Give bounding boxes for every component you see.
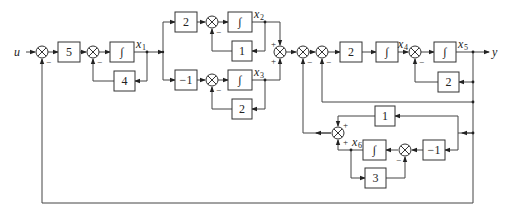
svg-text:2: 2: [183, 15, 189, 29]
svg-text:1: 1: [239, 44, 245, 58]
svg-text:−: −: [46, 57, 51, 67]
svg-text:2: 2: [446, 75, 452, 89]
svg-text:+: +: [343, 137, 348, 147]
gain-block-1-lower: 1: [375, 106, 395, 126]
svg-text:+: +: [343, 120, 348, 130]
svg-text:−: −: [326, 57, 331, 67]
integrator-block-1: ∫: [110, 42, 134, 62]
svg-text:−: −: [216, 27, 221, 37]
svg-text:x: x: [253, 7, 260, 21]
integrator-block-3: ∫: [228, 70, 252, 90]
svg-text:1: 1: [382, 109, 388, 123]
svg-text:6: 6: [358, 141, 362, 150]
svg-text:4: 4: [122, 74, 128, 88]
svg-text:x: x: [351, 135, 358, 149]
svg-text:−1: −1: [180, 73, 193, 87]
integrator-block-6: ∫: [363, 140, 386, 160]
svg-text:−: −: [307, 57, 312, 67]
svg-text:2: 2: [260, 13, 264, 22]
gain-block-2-forward: 2: [340, 42, 362, 62]
gain-block-2-mid: 2: [232, 99, 252, 119]
gain-block-2-feedback: 2: [438, 72, 459, 92]
svg-text:−: −: [396, 155, 401, 165]
gain-block-2-top: 2: [175, 12, 197, 32]
svg-text:∫: ∫: [442, 45, 447, 59]
state-label-x3: x3: [253, 65, 264, 80]
svg-text:4: 4: [404, 43, 408, 52]
state-label-x4: x4: [397, 37, 408, 52]
svg-text:∫: ∫: [237, 73, 242, 87]
svg-text:−: −: [97, 57, 102, 67]
svg-text:∫: ∫: [119, 45, 124, 59]
integrator-block-4: ∫: [376, 42, 398, 62]
block-diagram: − − − − + + − − − + + − 5 ∫ 4 2 ∫ 1 −1 ∫…: [0, 0, 508, 215]
svg-text:∫: ∫: [384, 45, 389, 59]
gain-block-neg1-lower: −1: [423, 140, 445, 160]
svg-text:3: 3: [260, 71, 264, 80]
svg-text:2: 2: [348, 45, 354, 59]
svg-text:2: 2: [239, 102, 245, 116]
state-label-x2: x2: [253, 7, 264, 22]
svg-text:−1: −1: [428, 143, 441, 157]
output-label: y: [491, 45, 498, 59]
gain-block-5: 5: [58, 42, 80, 62]
gain-block-4: 4: [114, 71, 135, 91]
state-label-x1: x1: [135, 37, 146, 52]
svg-text:−: −: [216, 85, 221, 95]
gain-block-neg1-mid: −1: [175, 70, 197, 90]
svg-text:1: 1: [142, 43, 146, 52]
integrator-block-2: ∫: [228, 12, 252, 32]
svg-text:5: 5: [66, 45, 72, 59]
state-label-x6: x6: [351, 135, 362, 150]
svg-text:∫: ∫: [237, 15, 242, 29]
svg-text:x: x: [397, 37, 404, 51]
svg-text:x: x: [457, 37, 464, 51]
svg-text:+: +: [271, 39, 276, 49]
input-label: u: [14, 45, 20, 59]
svg-text:3: 3: [373, 171, 379, 185]
svg-text:x: x: [253, 65, 260, 79]
integrator-block-5: ∫: [434, 42, 456, 62]
gain-block-3: 3: [365, 168, 386, 188]
svg-text:∫: ∫: [372, 143, 377, 157]
state-label-x5: x5: [457, 37, 468, 52]
svg-text:−: −: [419, 57, 424, 67]
gain-block-1-top: 1: [232, 41, 252, 61]
svg-text:5: 5: [464, 43, 468, 52]
svg-text:+: +: [271, 56, 276, 66]
svg-text:x: x: [135, 37, 142, 51]
